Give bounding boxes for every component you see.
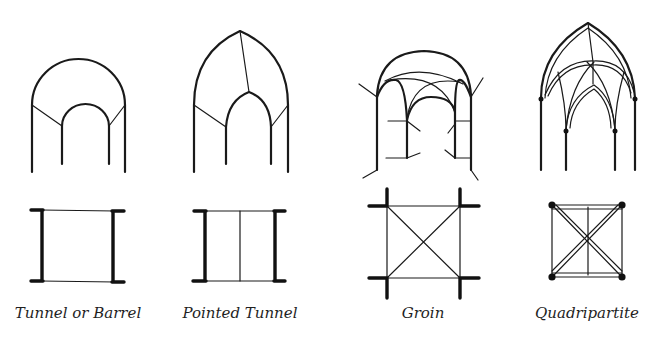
groin-vault-elevation <box>359 51 483 180</box>
vault-types-figure: Tunnel or Barrel Pointed Tunnel Groin Qu… <box>0 0 667 342</box>
caption-groin: Groin <box>402 304 445 322</box>
pointed-vault-elevation <box>194 31 288 172</box>
tunnel-vault-plan <box>31 210 124 282</box>
caption-quadripartite: Quadripartite <box>535 304 639 322</box>
groin-vault-plan <box>369 189 479 298</box>
quadripartite-vault-elevation <box>539 23 638 170</box>
pointed-vault-plan <box>193 211 285 281</box>
tunnel-vault-elevation <box>32 59 125 172</box>
caption-tunnel-or-barrel: Tunnel or Barrel <box>15 304 141 322</box>
caption-pointed-tunnel: Pointed Tunnel <box>183 304 298 322</box>
quadripartite-vault-plan <box>548 201 625 280</box>
